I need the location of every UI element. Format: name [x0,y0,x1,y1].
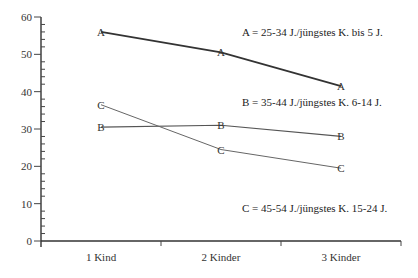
y-tick-label: 10 [21,198,33,210]
data-point-marker: B [97,121,104,133]
data-point-marker: C [217,144,224,156]
x-axis: 1 Kind2 Kinder3 Kinder [41,241,401,263]
y-tick-label: 60 [21,11,33,23]
line-chart: 0102030405060 1 Kind2 Kinder3 Kinder AAA… [0,0,418,278]
series-line [101,105,341,168]
legend-entry-b: B = 35-44 J./jüngstes K. 6-14 J. [242,96,382,108]
y-tick-label: 40 [21,86,33,98]
x-category-label: 3 Kinder [322,251,361,263]
legend-entry-a: A = 25-34 J./jüngstes K. bis 5 J. [242,26,383,38]
y-tick-label: 50 [21,48,33,60]
series-line [101,32,341,86]
data-point-marker: B [217,119,224,131]
data-point-marker: A [337,80,345,92]
x-category-label: 2 Kinder [202,251,241,263]
y-axis: 0102030405060 [21,11,45,247]
legend: A = 25-34 J./jüngstes K. bis 5 J.B = 35-… [242,26,387,214]
y-tick-label: 0 [27,235,33,247]
data-point-marker: C [97,99,104,111]
series-b: BBB [97,119,344,142]
data-point-marker: A [217,46,225,58]
legend-entry-c: C = 45-54 J./jüngstes K. 15-24 J. [242,202,387,214]
data-point-marker: B [337,130,344,142]
x-category-label: 1 Kind [86,251,117,263]
data-point-marker: A [97,26,105,38]
series-c: CCC [97,99,344,174]
y-tick-label: 20 [21,160,33,172]
y-tick-label: 30 [21,123,33,135]
data-point-marker: C [337,162,344,174]
